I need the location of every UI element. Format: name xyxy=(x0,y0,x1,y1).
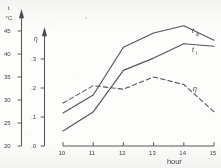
temperature-tick-45: 45 xyxy=(4,28,11,34)
curve-label-t-i-base: t xyxy=(192,46,195,53)
x-tick-11: 11 xyxy=(89,150,96,156)
efficiency-tick-01: .1 xyxy=(31,114,37,120)
temperature-axis: t °C 45 40 35 30 25 20 xyxy=(4,4,24,149)
efficiency-axis-symbol: η xyxy=(34,35,38,43)
temperature-tick-35: 35 xyxy=(4,74,11,80)
scan-speck xyxy=(85,17,86,18)
x-tick-15: 15 xyxy=(210,150,217,156)
x-tick-12: 12 xyxy=(119,150,126,156)
temperature-tick-20: 20 xyxy=(4,143,11,149)
x-axis-label: hour xyxy=(167,157,182,166)
curve-t-i xyxy=(63,44,214,131)
efficiency-tick-03: .3 xyxy=(31,56,37,62)
temperature-tick-30: 30 xyxy=(4,97,11,103)
x-axis: 10 11 12 13 14 15 hour xyxy=(59,142,217,166)
temperature-axis-unit: °C xyxy=(6,15,13,21)
curve-label-t-i: t i xyxy=(192,46,197,56)
efficiency-tick-00: .0 xyxy=(31,143,37,149)
x-tick-13: 13 xyxy=(149,150,156,156)
efficiency-axis-arrow xyxy=(42,27,47,36)
efficiency-axis: η .3 .2 .1 .0 xyxy=(31,27,47,149)
temperature-tick-25: 25 xyxy=(4,120,11,126)
x-tick-10: 10 xyxy=(59,150,66,156)
curve-t-a xyxy=(63,26,214,113)
x-tick-14: 14 xyxy=(179,150,186,156)
temperature-axis-arrow xyxy=(19,9,24,18)
curve-label-t-i-subscript: i xyxy=(196,51,197,56)
curve-eta xyxy=(63,77,214,112)
efficiency-tick-02: .2 xyxy=(31,85,37,91)
curve-label-t-a-subscript: a xyxy=(196,32,199,37)
curve-label-t-a: t a xyxy=(192,27,199,37)
temperature-axis-symbol: t xyxy=(8,4,10,11)
figure-chart: t °C 45 40 35 30 25 20 η .3 .2 .1 .0 xyxy=(0,0,221,168)
temperature-tick-40: 40 xyxy=(4,51,11,57)
curve-label-eta: η xyxy=(193,85,197,93)
